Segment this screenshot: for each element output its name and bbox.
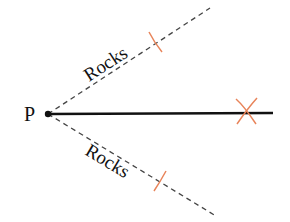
bisector-line: [48, 113, 273, 114]
lower-arc-mark: [154, 171, 166, 191]
lower-rocks-label: Rocks: [82, 139, 134, 181]
diagram-canvas: P Rocks Rocks: [0, 0, 290, 222]
point-label: P: [24, 103, 35, 125]
point-p-dot: [45, 111, 51, 117]
upper-arc-mark: [149, 32, 162, 52]
upper-dashed-ray: [48, 8, 210, 114]
upper-rocks-label: Rocks: [80, 42, 131, 85]
